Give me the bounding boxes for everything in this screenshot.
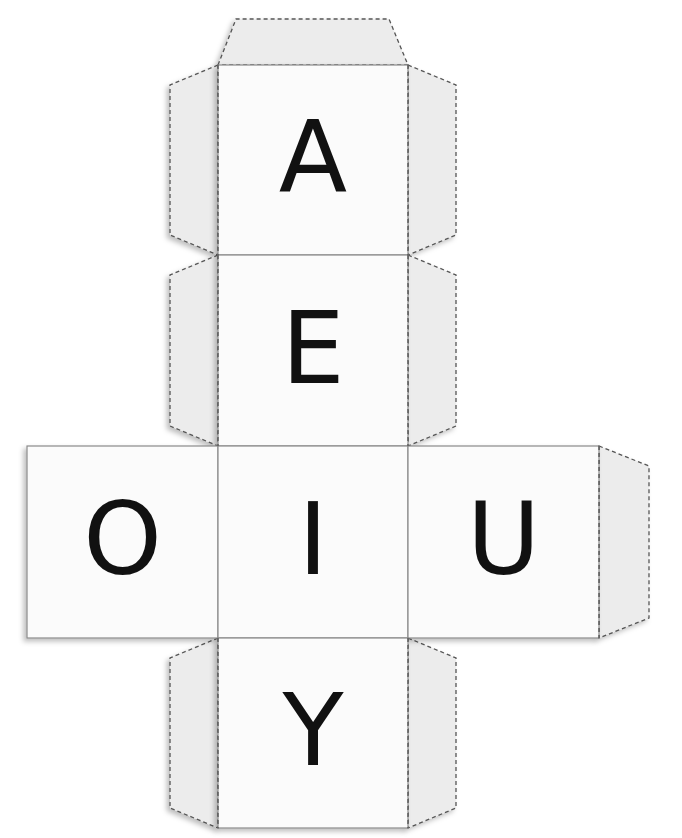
flap-e-left — [170, 255, 218, 446]
flap-e-right — [408, 255, 456, 446]
face-letter-center: I — [218, 490, 408, 590]
face-letter-top: A — [218, 108, 408, 208]
flap-y-left — [170, 638, 218, 828]
flap-u-right — [599, 446, 649, 638]
face-letter-upper: E — [218, 299, 408, 399]
flap-a-left — [170, 65, 218, 255]
flap-y-right — [408, 638, 456, 828]
face-letter-right: U — [408, 490, 599, 590]
flap-top — [218, 19, 408, 65]
face-letter-bottom: Y — [218, 681, 408, 781]
flap-a-right — [408, 65, 456, 255]
face-letter-left: O — [27, 490, 218, 590]
